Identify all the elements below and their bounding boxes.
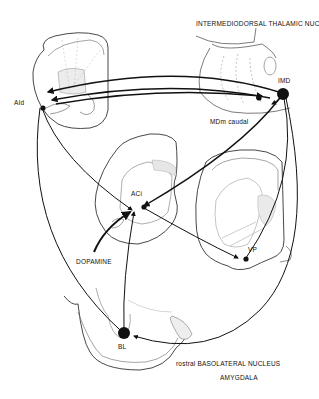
thalamus-section-md xyxy=(196,28,290,113)
pallidum-section-vp xyxy=(196,150,292,270)
dopamine-label: DOPAMINE xyxy=(76,258,112,265)
bl-node xyxy=(118,327,130,339)
imd-node xyxy=(277,88,289,100)
vp-node xyxy=(243,256,248,261)
aid-node xyxy=(40,105,45,110)
neural-circuit-diagram xyxy=(0,0,319,399)
striatum-section-aci xyxy=(95,134,177,244)
imd-label: IMD xyxy=(278,77,291,84)
thalamic-nucleus-title: INTERMEDIODORSAL THALAMIC NUCLEUS xyxy=(196,20,319,27)
mdm-caudal-label: MDm caudal xyxy=(210,118,248,125)
mdm-caudal-node xyxy=(256,95,261,100)
bl-label: BL xyxy=(118,343,126,350)
aid-label: AId xyxy=(14,99,24,106)
aci-node xyxy=(141,204,146,209)
aci-label: ACi xyxy=(131,190,142,197)
amygdala-title-line1: rostral BASOLATERAL NUCLEUS xyxy=(176,360,280,367)
amygdala-title-line2: AMYGDALA xyxy=(220,374,258,381)
vp-label: VP xyxy=(248,246,257,253)
